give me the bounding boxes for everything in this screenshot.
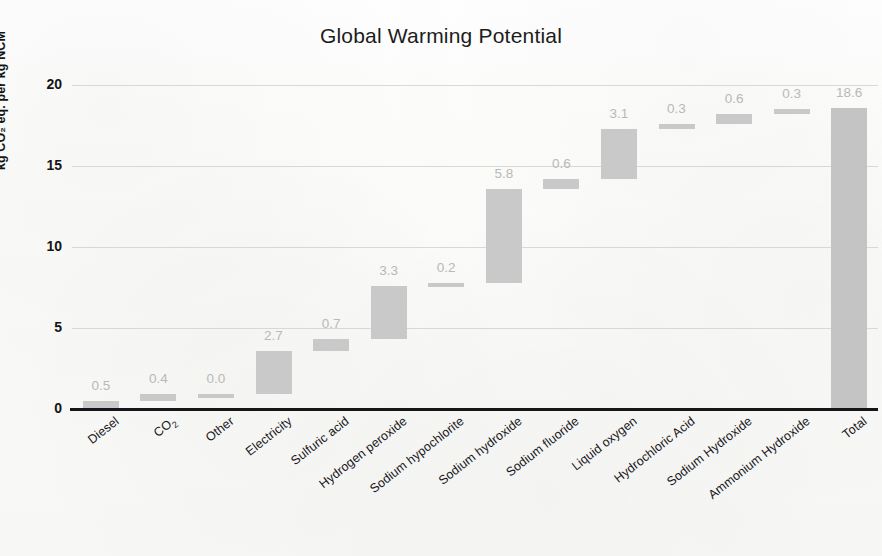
x-label-sodium-hypochlorite: Sodium hypochlorite bbox=[367, 414, 466, 496]
gridline-5 bbox=[72, 328, 878, 329]
y-tick-label-10: 10 bbox=[22, 238, 62, 254]
bar-value-label: 0.7 bbox=[301, 316, 361, 331]
x-label-ammonium-hydroxide: Ammonium Hydroxide bbox=[705, 414, 812, 502]
x-label-total: Total bbox=[840, 414, 870, 442]
bar-sodium-hypochlorite[interactable] bbox=[428, 283, 464, 287]
bar-value-label: 2.7 bbox=[244, 328, 304, 343]
gridline-20 bbox=[72, 85, 878, 86]
bar-electricity[interactable] bbox=[256, 351, 292, 395]
bar-liquid-oxygen[interactable] bbox=[601, 129, 637, 179]
bar-ammonium-hydroxide[interactable] bbox=[774, 109, 810, 114]
x-label-diesel: Diesel bbox=[85, 414, 121, 447]
bar-other[interactable] bbox=[198, 394, 234, 398]
bar-sodium-hydroxide[interactable] bbox=[716, 114, 752, 124]
x-label-electricity: Electricity bbox=[242, 414, 294, 459]
x-label-co: CO2 bbox=[151, 414, 180, 442]
bar-value-label: 0.6 bbox=[704, 91, 764, 106]
bar-value-label: 0.4 bbox=[128, 371, 188, 386]
bar-value-label: 0.2 bbox=[416, 260, 476, 275]
y-axis-tick-labels: 05101520 bbox=[22, 85, 66, 409]
zero-baseline-axis bbox=[70, 408, 878, 411]
global-warming-potential-waterfall-chart: Global Warming Potential kg CO₂ eq. per … bbox=[0, 0, 882, 556]
bar-value-label: 3.3 bbox=[359, 263, 419, 278]
bar-hydrogen-peroxide[interactable] bbox=[371, 286, 407, 339]
chart-title: Global Warming Potential bbox=[0, 24, 882, 48]
y-tick-label-5: 5 bbox=[22, 319, 62, 335]
bar-value-label: 0.6 bbox=[531, 156, 591, 171]
bar-value-label: 0.3 bbox=[647, 101, 707, 116]
bar-hydrochloric-acid[interactable] bbox=[659, 124, 695, 129]
y-tick-label-15: 15 bbox=[22, 157, 62, 173]
bar-sodium-hydroxide[interactable] bbox=[486, 189, 522, 283]
bar-value-label: 3.1 bbox=[589, 106, 649, 121]
y-tick-label-0: 0 bbox=[22, 400, 62, 416]
bar-value-label: 0.3 bbox=[762, 86, 822, 101]
bar-value-label: 5.8 bbox=[474, 166, 534, 181]
gridline-10 bbox=[72, 247, 878, 248]
bar-total[interactable] bbox=[831, 108, 867, 409]
x-label-other: Other bbox=[203, 414, 237, 445]
bar-value-label: 18.6 bbox=[819, 85, 879, 100]
bar-value-label: 0.0 bbox=[186, 371, 246, 386]
y-axis-title: kg CO₂ eq. per kg NCM bbox=[0, 0, 8, 170]
y-tick-label-20: 20 bbox=[22, 76, 62, 92]
plot-area: 0.50.40.02.70.73.30.25.80.63.10.30.60.31… bbox=[72, 85, 878, 409]
bar-sulfuric-acid[interactable] bbox=[313, 339, 349, 350]
bar-co[interactable] bbox=[140, 394, 176, 400]
bar-sodium-fluoride[interactable] bbox=[543, 179, 579, 189]
bar-value-label: 0.5 bbox=[71, 378, 131, 393]
